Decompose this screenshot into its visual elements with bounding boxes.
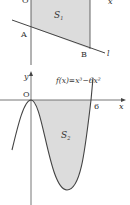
point-b-label: B — [81, 50, 87, 59]
axis-label-x-2: x — [119, 102, 124, 111]
region-s2 — [31, 100, 91, 190]
function-label: f(x)=x³−6x² — [55, 76, 101, 85]
diagram-canvas: O x A B l S1 y O 6 x f(x)=x³−6x² S2 — [0, 0, 130, 205]
y-axis-arrow-icon — [29, 71, 33, 76]
origin-label-1: O — [22, 0, 29, 5]
region-s1 — [31, 0, 90, 49]
tick-label-6: 6 — [94, 102, 99, 111]
origin-label-2: O — [23, 90, 30, 99]
figure-1: O x A B l S1 — [12, 0, 113, 65]
line-l-label: l — [107, 49, 110, 58]
figure-2: y O 6 x f(x)=x³−6x² S2 — [0, 71, 126, 205]
point-a-label: A — [20, 30, 27, 39]
axis-label-x-1: x — [108, 0, 113, 6]
axis-label-y-2: y — [23, 72, 29, 81]
